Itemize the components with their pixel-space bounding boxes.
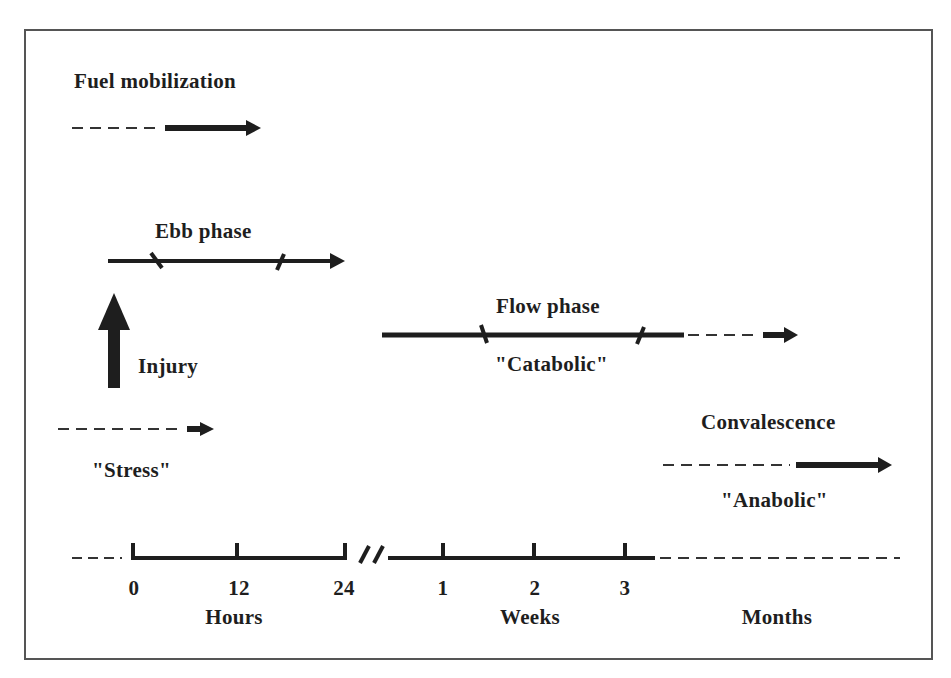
injury-label: Injury xyxy=(138,354,198,379)
hours-unit-label: Hours xyxy=(205,605,263,630)
tick-label-24: 24 xyxy=(333,576,355,601)
flow-phase-label: Flow phase xyxy=(496,294,600,319)
injury-arrow-icon xyxy=(98,293,130,388)
tick-label-week-2: 2 xyxy=(530,576,541,601)
anabolic-label: "Anabolic" xyxy=(721,488,828,513)
convalescence-arrow xyxy=(663,457,892,473)
weeks-unit-label: Weeks xyxy=(500,605,560,630)
convalescence-label: Convalescence xyxy=(701,410,836,435)
ebb-phase-arrow xyxy=(108,253,345,270)
fuel-mobilization-label: Fuel mobilization xyxy=(74,69,236,94)
catabolic-label: "Catabolic" xyxy=(495,352,608,377)
stress-label: "Stress" xyxy=(92,458,171,483)
ebb-phase-label: Ebb phase xyxy=(155,219,252,244)
tick-label-12: 12 xyxy=(228,576,250,601)
diagram-graphics xyxy=(0,0,951,678)
tick-label-0: 0 xyxy=(129,576,140,601)
tick-label-week-3: 3 xyxy=(620,576,631,601)
flow-phase-arrow xyxy=(382,325,798,344)
stress-arrow xyxy=(58,422,214,436)
time-axis xyxy=(72,543,900,563)
months-unit-label: Months xyxy=(742,605,813,630)
tick-label-week-1: 1 xyxy=(438,576,449,601)
fuel-mobilization-arrow xyxy=(72,120,261,136)
